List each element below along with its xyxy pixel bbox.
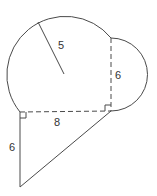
composite-figure-diagram: 5 6 8 6	[0, 0, 157, 196]
triangle-hypotenuse	[20, 111, 111, 187]
semicircle-diameter-label: 6	[115, 69, 121, 81]
right-angle-marker-right	[105, 105, 111, 111]
right-angle-marker-left	[20, 112, 26, 118]
horizontal-dashed-chord	[20, 111, 111, 112]
triangle-leg-label: 6	[9, 141, 15, 153]
radius-label: 5	[58, 39, 64, 51]
horizontal-chord-label: 8	[54, 116, 60, 128]
